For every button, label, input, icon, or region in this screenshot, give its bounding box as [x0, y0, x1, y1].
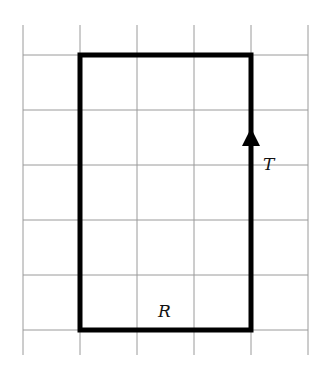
arrow-up-icon: [242, 128, 260, 146]
label-r: R: [158, 301, 171, 321]
label-t: T: [263, 154, 274, 174]
rectangle-path: [80, 55, 251, 330]
